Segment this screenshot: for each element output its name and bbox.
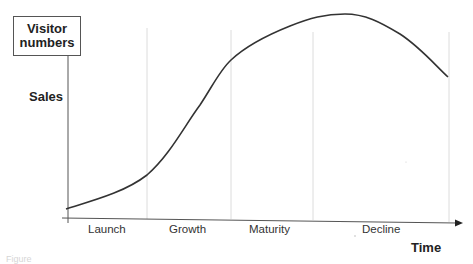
speck	[354, 235, 356, 237]
y-axis-label-box: Visitor numbers	[13, 16, 81, 56]
stage-label-growth: Growth	[169, 223, 206, 235]
y-axis-label-line2: numbers	[20, 36, 75, 50]
x-axis-arrow-icon	[455, 220, 463, 227]
stage-label-maturity: Maturity	[249, 223, 290, 235]
figure-caption: Figure	[6, 254, 32, 264]
stage-label-decline: Decline	[362, 223, 400, 235]
stage-label-launch: Launch	[88, 223, 126, 235]
x-axis-label-time: Time	[411, 240, 441, 255]
speck	[405, 161, 406, 162]
sales-curve	[66, 14, 448, 209]
product-life-cycle-diagram: Visitor numbers Sales Launch Growth Matu…	[0, 0, 473, 264]
y-axis-label-sales: Sales	[29, 89, 63, 104]
y-axis-label-line1: Visitor	[27, 22, 67, 36]
